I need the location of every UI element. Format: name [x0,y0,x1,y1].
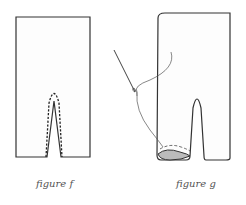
needle-icon [114,50,135,92]
trousers-outline [157,13,230,160]
figure-g-caption: figure g [176,178,216,189]
figure-g-drawing [114,13,230,160]
figure-f-drawing [16,17,90,157]
figure-f-caption: figure f [36,178,73,189]
diagram-canvas [0,0,246,205]
fabric-outline [16,17,90,157]
